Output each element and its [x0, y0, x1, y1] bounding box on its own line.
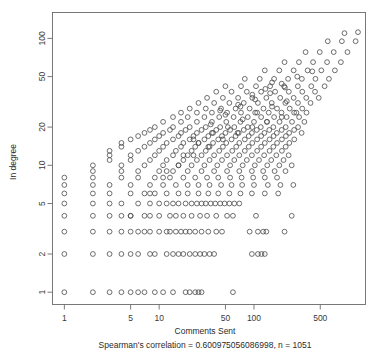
- y-tick-label: 1: [38, 290, 48, 295]
- x-tick-label: 1: [62, 313, 67, 323]
- scatter-plot-figure: 125102050100 151050100500 In degree Comm…: [0, 0, 381, 362]
- y-tick-label: 5: [38, 201, 48, 206]
- plot-svg: 125102050100 151050100500 In degree Comm…: [0, 0, 381, 362]
- y-tick-label: 100: [38, 31, 48, 45]
- x-tick-label: 10: [154, 313, 164, 323]
- y-tick-label: 50: [38, 72, 48, 82]
- x-tick-label: 50: [221, 313, 231, 323]
- x-axis-title: Comments Sent: [175, 326, 237, 336]
- y-axis-tick-marks: [48, 38, 53, 292]
- y-tick-label: 20: [37, 122, 47, 132]
- correlation-caption: Spearman's correlation = 0.6009750560869…: [99, 340, 312, 350]
- x-tick-label: 5: [128, 313, 133, 323]
- figure-background: [0, 0, 381, 362]
- x-tick-label: 500: [313, 313, 327, 323]
- y-tick-label: 2: [37, 251, 47, 256]
- x-tick-label: 100: [247, 313, 261, 323]
- y-tick-label: 10: [38, 160, 48, 170]
- y-axis-title: In degree: [8, 144, 18, 180]
